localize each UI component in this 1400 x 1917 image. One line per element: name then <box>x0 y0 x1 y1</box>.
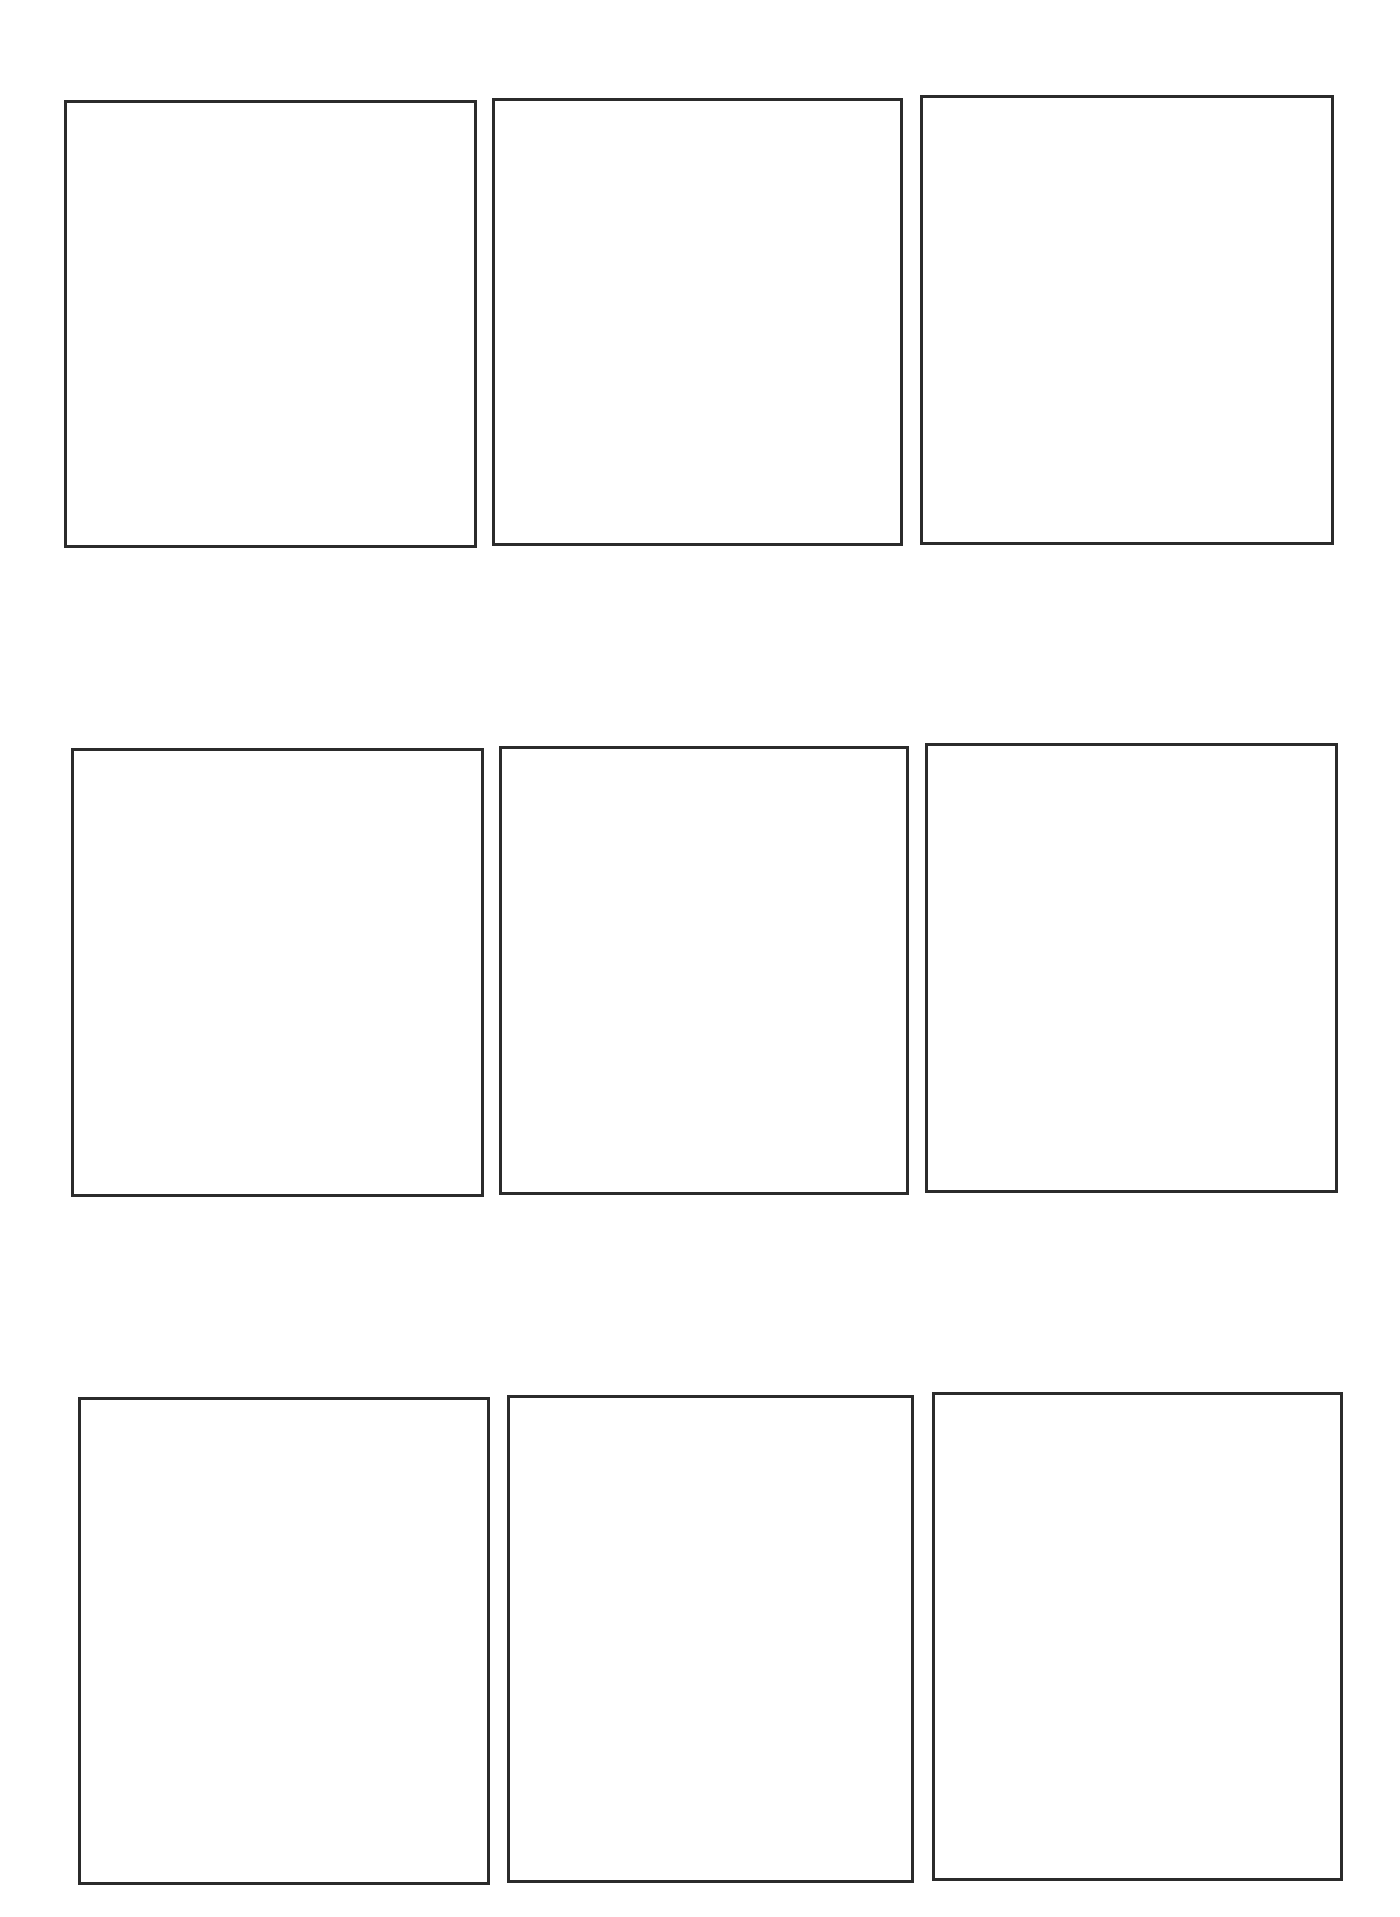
panel-r1-c2 <box>492 98 903 546</box>
panel-r1-c3 <box>920 95 1334 545</box>
panel-r3-c2 <box>507 1395 914 1883</box>
blank-panel-template-page <box>0 0 1400 1917</box>
panel-r2-c2 <box>499 746 909 1195</box>
panel-r3-c1 <box>78 1397 490 1885</box>
panel-r2-c1 <box>71 748 484 1197</box>
panel-r1-c1 <box>64 100 477 548</box>
panel-r3-c3 <box>932 1392 1343 1881</box>
panel-r2-c3 <box>925 743 1338 1193</box>
